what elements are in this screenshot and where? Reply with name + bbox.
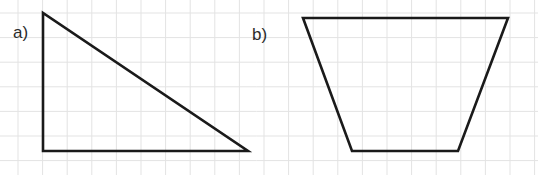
geometry-figure: a)b): [0, 0, 538, 175]
figure-canvas: a)b): [0, 0, 538, 175]
shape-label-b: b): [252, 25, 267, 44]
shape-label-a: a): [13, 23, 28, 42]
figure-background: [0, 0, 538, 175]
